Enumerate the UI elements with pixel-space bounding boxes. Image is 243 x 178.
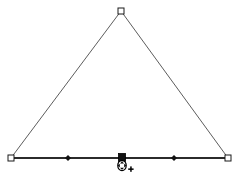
base-left-vertex-handle[interactable]	[8, 155, 14, 161]
vector-edit-canvas[interactable]: Triangle Path Edit Canvas	[0, 0, 243, 178]
apex-vertex-handle[interactable]	[118, 8, 124, 14]
triangle-shape-layer[interactable]	[0, 0, 243, 178]
canvas-background	[0, 0, 243, 178]
base-right-vertex-handle[interactable]	[225, 155, 231, 161]
